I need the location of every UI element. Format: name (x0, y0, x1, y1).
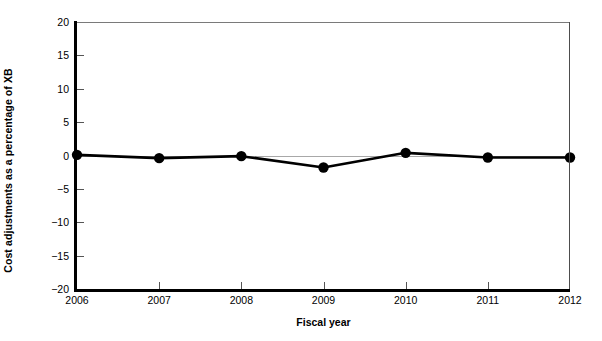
x-tick-mark (159, 282, 160, 289)
data-series (77, 22, 570, 289)
data-point-marker (400, 148, 410, 158)
y-tick-label: 15 (57, 49, 69, 61)
y-tick-label: 5 (63, 116, 69, 128)
y-tick-label: 20 (57, 16, 69, 28)
plot-frame-right (569, 22, 570, 289)
x-tick-label: 2010 (394, 294, 417, 306)
y-tick-label: −20 (51, 283, 69, 295)
x-axis-title: Fiscal year (77, 316, 570, 328)
data-point-marker (565, 152, 575, 162)
x-tick-label: 2012 (558, 294, 581, 306)
x-tick-mark (324, 282, 325, 289)
y-tick-label: 0 (63, 150, 69, 162)
x-tick-label: 2008 (230, 294, 253, 306)
x-tick-mark (488, 282, 489, 289)
data-point-marker (483, 152, 493, 162)
x-tick-mark (241, 282, 242, 289)
y-axis-spine (74, 21, 77, 290)
plot-frame-top (77, 22, 570, 23)
x-tick-label: 2011 (477, 294, 500, 306)
y-tick-label: −5 (57, 183, 69, 195)
x-tick-mark (406, 282, 407, 289)
y-tick-label: 10 (57, 83, 69, 95)
x-tick-label: 2009 (312, 294, 335, 306)
data-point-marker (236, 151, 246, 161)
x-axis-spine (74, 289, 570, 292)
data-point-marker (318, 162, 328, 172)
y-tick-label: −10 (51, 216, 69, 228)
chart-figure: Cost adjustments as a percentage of XB −… (0, 0, 602, 341)
x-tick-label: 2006 (65, 294, 88, 306)
data-point-marker (154, 153, 164, 163)
y-tick-label: −15 (51, 250, 69, 262)
y-axis-ticks: −20−15−10−505101520 (0, 22, 77, 289)
plot-area (77, 22, 570, 289)
x-tick-label: 2007 (147, 294, 170, 306)
